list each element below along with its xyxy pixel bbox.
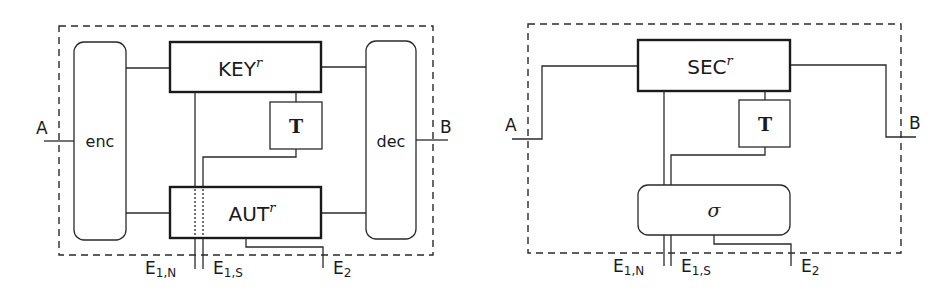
e1s-label: E1,S — [213, 258, 243, 280]
dec-label: dec — [377, 132, 406, 151]
t-label: T — [289, 115, 303, 137]
e2-label: E2 — [333, 258, 351, 280]
port-b-label: B — [440, 117, 452, 137]
e2-sub: 2 — [344, 266, 352, 280]
port-a-label: A — [505, 115, 517, 135]
e2-sub: 2 — [812, 264, 820, 278]
diagram-canvas: A B enc dec KEYr T AUTr E1, — [0, 0, 949, 298]
e1n-sub: 1,N — [624, 264, 644, 278]
t-label: T — [758, 113, 772, 135]
port-a-path — [512, 66, 638, 139]
sigma-e2-path — [714, 235, 791, 266]
e2-base: E — [801, 256, 812, 276]
e1s-base: E — [681, 256, 692, 276]
port-a-label: A — [36, 118, 48, 138]
aut-e2-path — [246, 238, 323, 268]
sigma-label: σ — [708, 199, 722, 221]
e1n-sub: 1,N — [156, 266, 176, 280]
port-b-label: B — [909, 113, 921, 133]
left-diagram: A B enc dec KEYr T AUTr E1, — [36, 26, 452, 280]
aut-label-sup: r — [269, 200, 276, 215]
sec-label-base: SEC — [687, 55, 726, 79]
e1n-label: E1,N — [613, 256, 644, 278]
key-label-base: KEY — [218, 57, 257, 81]
e1n-base: E — [613, 256, 624, 276]
e2-label: E2 — [801, 256, 819, 278]
e1n-label: E1,N — [145, 258, 176, 280]
e1s-sub: 1,S — [692, 264, 711, 278]
e1n-base: E — [145, 258, 156, 278]
enc-label: enc — [86, 132, 115, 151]
aut-label: AUTr — [229, 200, 277, 226]
e1s-base: E — [213, 258, 224, 278]
e1s-sub: 1,S — [224, 266, 243, 280]
right-diagram: A B SECr T σ E1,N E1,S E2 — [505, 24, 921, 278]
e1s-label: E1,S — [681, 256, 711, 278]
sec-label-sup: r — [727, 53, 734, 68]
key-label-sup: r — [256, 55, 263, 70]
port-b-path — [790, 65, 916, 137]
e2-base: E — [333, 258, 344, 278]
aut-label-base: AUT — [229, 202, 270, 226]
